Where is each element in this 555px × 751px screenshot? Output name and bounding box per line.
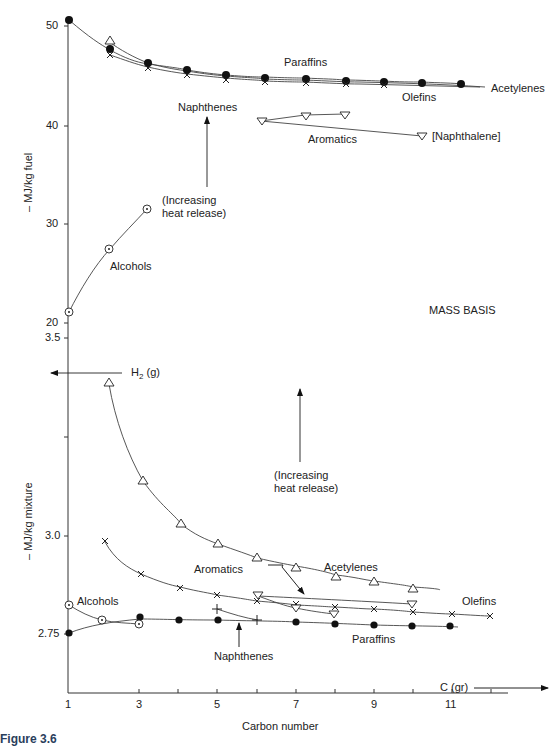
label-bot-alcohols: Alcohols	[77, 595, 119, 607]
label-top-naphthenes: Naphthenes	[178, 101, 237, 113]
xtick-7: 7	[293, 698, 299, 710]
label-mass-basis: MASS BASIS	[429, 304, 496, 316]
x-axis-label: Carbon number	[242, 720, 318, 732]
label-h2: H2 (g)	[131, 366, 160, 381]
label-bot-olefins: Olefins	[462, 595, 496, 607]
chart-canvas	[0, 0, 555, 751]
label-top-olefins: Olefins	[402, 91, 436, 103]
label-bot-increasing-1: (Increasing	[274, 469, 328, 481]
label-bot-aromatics: Aromatics	[194, 563, 243, 575]
h2-main: H	[131, 366, 139, 378]
label-top-increasing-1: (Increasing	[162, 194, 216, 206]
xtick-9: 9	[371, 698, 377, 710]
xtick-3: 3	[136, 698, 142, 710]
figure-caption: Figure 3.6	[0, 732, 57, 746]
label-bot-paraffins: Paraffins	[352, 633, 395, 645]
ytick-top-40: 40	[46, 119, 58, 131]
h2-tail: (g)	[143, 366, 160, 378]
paraffins-markers-bottom	[65, 613, 453, 636]
ytick-top-20: 20	[46, 316, 58, 328]
label-top-naphthalene: [Naphthalene]	[432, 130, 501, 142]
bottom-panel-markers	[65, 378, 548, 688]
label-bot-increasing-2: heat release)	[274, 482, 338, 494]
xtick-5: 5	[214, 698, 220, 710]
y-axis-label-top: – MJ/kg fuel	[22, 153, 34, 212]
ytick-bot-3.5: 3.5	[45, 331, 60, 343]
ytick-top-50: 50	[46, 19, 58, 31]
xtick-11: 11	[445, 698, 456, 710]
label-bot-acetylenes: Acetylenes	[324, 561, 378, 573]
ytick-bot-2.75: 2.75	[38, 627, 59, 639]
y-axis-label-bottom: – MJ/kg mixture	[22, 482, 34, 560]
label-top-alcohols: Alcohols	[110, 260, 152, 272]
xtick-1: 1	[65, 698, 71, 710]
label-top-acetylenes: Acetylenes	[491, 82, 545, 94]
axes	[64, 22, 508, 693]
ytick-bot-3.0: 3.0	[45, 529, 60, 541]
label-top-increasing-2: heat release)	[162, 207, 226, 219]
label-bot-naphthenes: Naphthenes	[214, 650, 273, 662]
label-top-paraffins: Paraffins	[284, 56, 327, 68]
label-top-aromatics: Aromatics	[308, 133, 357, 145]
bottom-panel-curves	[51, 373, 490, 633]
label-cgr: C (gr)	[440, 681, 468, 693]
acetylenes-markers-bottom	[104, 378, 418, 592]
olefins-markers-top	[107, 52, 387, 88]
ytick-top-30: 30	[46, 217, 58, 229]
aromatics-markers-bottom	[253, 592, 417, 618]
acetylenes-markers-top	[105, 36, 115, 44]
